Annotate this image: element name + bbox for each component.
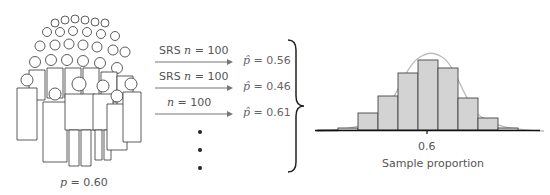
population-illustration: [5, 10, 145, 170]
sample-row-2: SRS n = 100 p̂ = 0.46: [155, 70, 285, 94]
continuation-dot: [198, 130, 202, 134]
x-axis-label: Sample proportion: [382, 157, 484, 170]
p-hat-symbol: p̂: [243, 80, 250, 93]
histogram-chart: [310, 30, 550, 140]
x-tick-label: 0.6: [418, 140, 436, 153]
n-value: = 100: [174, 96, 211, 109]
continuation-dot: [198, 148, 202, 152]
arrow-right-icon: [155, 110, 233, 118]
srs-text: SRS: [159, 70, 184, 83]
continuation-dot: [198, 166, 202, 170]
arrow-right-icon: [155, 84, 233, 92]
p-symbol: p: [60, 176, 67, 189]
arrow-label: n = 100: [167, 96, 211, 109]
p-hat-symbol: p̂: [243, 106, 250, 119]
arrow-label: SRS n = 100: [159, 44, 228, 57]
population-parameter: p = 0.60: [60, 176, 108, 189]
sampling-distribution-histogram: 0.6 Sample proportion: [310, 30, 550, 195]
curly-brace-icon: [284, 38, 306, 174]
arrow-label: SRS n = 100: [159, 70, 228, 83]
p-hat-symbol: p̂: [243, 54, 250, 67]
p-value: = 0.60: [67, 176, 108, 189]
arrow-right-icon: [155, 58, 233, 66]
srs-text: SRS: [159, 44, 184, 57]
sample-row-3: n = 100 p̂ = 0.61: [155, 96, 285, 120]
n-value: = 100: [191, 70, 228, 83]
crowd-icon: [5, 10, 145, 170]
n-value: = 100: [191, 44, 228, 57]
sample-row-1: SRS n = 100 p̂ = 0.56: [155, 44, 285, 68]
